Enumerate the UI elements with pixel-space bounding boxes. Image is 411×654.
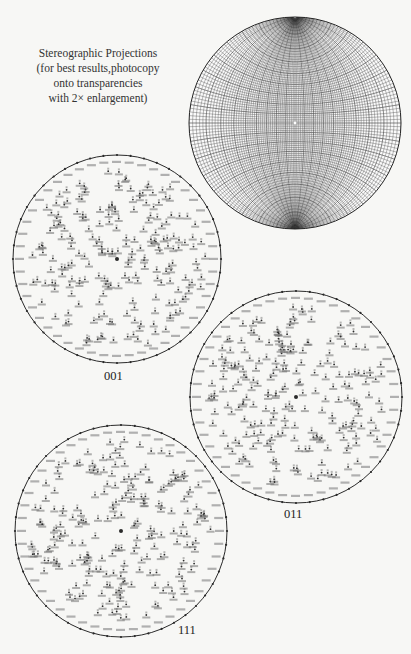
projection-011: [189, 290, 403, 504]
projection-label-001: 001: [104, 369, 123, 384]
wulff-net: [189, 17, 401, 229]
projection-label-011: 011: [284, 507, 302, 522]
projection-001: [12, 154, 222, 364]
figure-canvas: [0, 0, 411, 654]
projection-label-111: 111: [178, 623, 196, 638]
projection-111: [14, 424, 228, 638]
